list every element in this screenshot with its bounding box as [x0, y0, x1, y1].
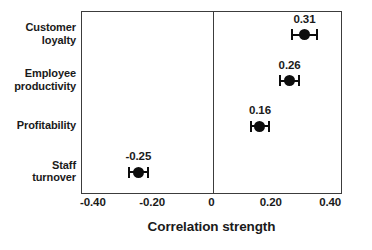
- y-axis-label-line1: Staff: [0, 159, 76, 172]
- y-axis-label-line2: loyalty: [0, 34, 76, 47]
- x-axis-tick: -0.20: [139, 196, 165, 208]
- error-bar-cap-low: [250, 121, 252, 132]
- error-bar-cap-low: [291, 29, 293, 40]
- y-axis-label-line1: Profitability: [0, 119, 76, 132]
- data-point-marker: [133, 167, 144, 178]
- y-axis-label-line1: Employee: [0, 67, 76, 80]
- x-axis-tick: 0.40: [319, 196, 341, 208]
- y-axis-label-staff-turnover: Staff turnover: [0, 159, 76, 184]
- y-axis-label-line1: Customer: [0, 21, 76, 34]
- y-axis-category-labels: Customer loyalty Employee productivity P…: [0, 11, 76, 194]
- x-axis-tick-labels: -0.40 -0.20 0 0.20 0.40: [81, 196, 342, 212]
- data-point-value-label: -0.25: [125, 150, 151, 162]
- x-axis-title: Correlation strength: [81, 219, 342, 234]
- error-bar-cap-high: [316, 29, 318, 40]
- error-bar-cap-high: [268, 121, 270, 132]
- y-axis-label-customer-loyalty: Customer loyalty: [0, 21, 76, 46]
- y-axis-label-employee-productivity: Employee productivity: [0, 67, 76, 92]
- error-bar-cap-high: [147, 167, 149, 178]
- x-axis-tick: 0: [208, 196, 214, 208]
- data-point-value-label: 0.16: [249, 104, 271, 116]
- error-bar-cap-low: [128, 167, 130, 178]
- y-axis-label-profitability: Profitability: [0, 119, 76, 132]
- data-point-marker: [299, 29, 310, 40]
- data-point-marker: [254, 121, 265, 132]
- data-point-value-label: 0.26: [279, 59, 301, 71]
- data-point-marker: [284, 75, 295, 86]
- error-bar-cap-low: [279, 75, 281, 86]
- zero-reference-line: [213, 12, 214, 193]
- error-bar-cap-high: [298, 75, 300, 86]
- data-point-value-label: 0.31: [293, 13, 315, 25]
- plot-area: 0.31 0.26 0.16 -0.25: [81, 11, 342, 194]
- y-axis-label-line2: productivity: [0, 80, 76, 93]
- x-axis-tick: 0.20: [260, 196, 282, 208]
- x-axis-tick: -0.40: [80, 196, 106, 208]
- correlation-strength-dot-plot: Customer loyalty Employee productivity P…: [0, 0, 372, 250]
- y-axis-label-line2: turnover: [0, 171, 76, 184]
